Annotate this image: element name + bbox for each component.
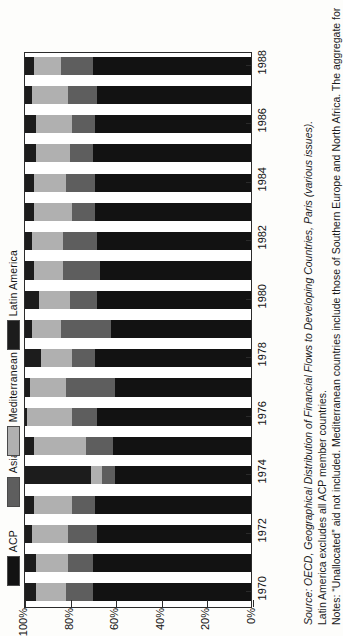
bar-1985 — [25, 144, 251, 162]
bar-segment-lat-1980 — [25, 291, 39, 309]
bar-segment-lat-1981 — [25, 261, 34, 279]
bar-segment-asia-1970 — [66, 583, 93, 601]
bar-segment-med-1970 — [36, 583, 65, 601]
legend-swatch-latin-america — [7, 320, 20, 350]
bar-segment-acp-1977 — [115, 378, 251, 396]
bar-segment-asia-1988 — [61, 57, 93, 75]
bar-1988 — [25, 57, 251, 75]
plot-frame — [24, 52, 252, 608]
bar-segment-acp-1988 — [93, 57, 251, 75]
bar-segment-lat-1983 — [25, 203, 34, 221]
bar-1986 — [25, 115, 251, 133]
bar-segment-med-1983 — [34, 203, 72, 221]
bar-segment-asia-1983 — [72, 203, 95, 221]
bar-segment-acp-1978 — [95, 349, 251, 367]
value-axis-label-100: 100% — [17, 608, 29, 636]
bar-1984 — [25, 174, 251, 192]
legend-item-latin-america[interactable]: Latin America — [0, 250, 26, 350]
bar-segment-med-1971 — [36, 554, 68, 572]
value-axis-label-60: 60% — [108, 608, 120, 630]
legend-item-mediterranean[interactable]: Mediterranean — [0, 352, 26, 456]
bar-segment-acp-1975 — [113, 437, 251, 455]
value-axis-label-20: 20% — [199, 608, 211, 630]
bar-segment-lat-1984 — [25, 174, 34, 192]
bar-segment-lat-1979 — [25, 320, 32, 338]
bar-segment-lat-1971 — [25, 554, 36, 572]
category-axis-label-1984: 1984 — [256, 167, 268, 191]
category-tick-1986 — [246, 123, 252, 124]
bar-segment-acp-1981 — [100, 261, 251, 279]
legend-swatch-asia — [7, 477, 20, 507]
bar-segment-lat-1975 — [25, 437, 34, 455]
category-tick-1988 — [246, 65, 252, 66]
bar-segment-med-1973 — [34, 496, 72, 514]
bar-segment-asia-1985 — [70, 144, 93, 162]
value-axis-label-80: 80% — [63, 608, 75, 630]
category-axis-label-1972: 1972 — [256, 518, 268, 542]
bar-segment-med-1985 — [36, 144, 70, 162]
bar-segment-asia-1986 — [72, 115, 95, 133]
bar-1971 — [25, 554, 251, 572]
bar-segment-med-1978 — [41, 349, 73, 367]
category-tick-1970 — [246, 591, 252, 592]
bar-segment-lat-1987 — [25, 86, 32, 104]
bar-1987 — [25, 86, 251, 104]
chart-canvas — [24, 52, 252, 608]
notes-block: Notes: “Unallocated” aid not included. M… — [292, 0, 343, 625]
category-axis-label-1980: 1980 — [256, 284, 268, 308]
plot-area — [24, 52, 252, 608]
legend-label-latin-america: Latin America — [7, 250, 19, 316]
bar-segment-acp-1980 — [97, 291, 251, 309]
bar-segment-acp-1984 — [95, 174, 251, 192]
bar-1973 — [25, 496, 251, 514]
legend-item-acp[interactable]: ACP — [0, 530, 26, 586]
bar-segment-med-1979 — [32, 320, 61, 338]
bar-segment-acp-1973 — [95, 496, 251, 514]
category-tick-1974 — [246, 474, 252, 475]
bar-segment-med-1987 — [32, 86, 68, 104]
bar-segment-asia-1971 — [68, 554, 93, 572]
tick-mark — [25, 600, 26, 607]
legend-label-mediterranean: Mediterranean — [7, 352, 19, 422]
bar-segment-asia-1980 — [70, 291, 97, 309]
legend-swatch-mediterranean — [7, 426, 20, 456]
bar-1981 — [25, 261, 251, 279]
bar-segment-lat-1973 — [25, 496, 34, 514]
bar-segment-acp-1985 — [93, 144, 251, 162]
bar-segment-lat-1974 — [25, 466, 91, 484]
bar-segment-lat-1972 — [25, 525, 32, 543]
bar-segment-lat-1985 — [25, 144, 36, 162]
notes-line-2: Latin America excludes all ACP member co… — [317, 0, 329, 625]
value-axis-label-0: 0% — [245, 608, 257, 624]
bar-1976 — [25, 408, 251, 426]
bar-1977 — [25, 378, 251, 396]
category-axis-labels: 1970197219741976197819801982198419861988 — [256, 52, 286, 608]
category-axis-label-1970: 1970 — [256, 576, 268, 600]
bar-segment-med-1974 — [91, 466, 102, 484]
bar-segment-lat-1986 — [25, 115, 36, 133]
bar-segment-asia-1973 — [72, 496, 95, 514]
bar-segment-med-1984 — [34, 174, 66, 192]
bar-segment-asia-1972 — [68, 525, 97, 543]
bar-1982 — [25, 232, 251, 250]
bar-segment-asia-1975 — [86, 437, 113, 455]
legend-swatch-acp — [7, 556, 20, 586]
bar-segment-asia-1984 — [66, 174, 95, 192]
bar-segment-lat-1978 — [25, 349, 41, 367]
category-axis-label-1974: 1974 — [256, 459, 268, 483]
bar-segment-med-1982 — [32, 232, 64, 250]
bar-segment-asia-1977 — [66, 378, 116, 396]
bar-1983 — [25, 203, 251, 221]
tick-mark — [162, 600, 163, 607]
notes-line-1: Notes: “Unallocated” aid not included. M… — [331, 0, 343, 625]
bar-segment-med-1972 — [32, 525, 68, 543]
legend-label-acp: ACP — [7, 530, 19, 552]
bar-segment-lat-1970 — [25, 583, 36, 601]
category-tick-1972 — [246, 533, 252, 534]
legend-item-asia[interactable]: Asia — [0, 452, 26, 507]
bar-segment-asia-1979 — [61, 320, 111, 338]
category-tick-1976 — [246, 416, 252, 417]
tick-mark — [253, 600, 254, 607]
category-tick-1978 — [246, 357, 252, 358]
